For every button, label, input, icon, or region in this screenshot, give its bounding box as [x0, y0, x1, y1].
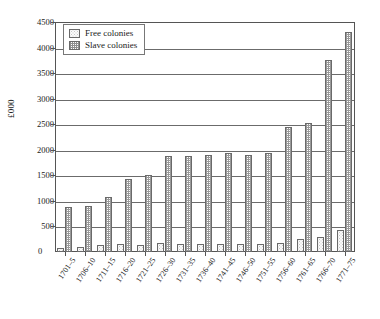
bar-slave-colonies [145, 175, 152, 252]
legend-swatch-free-icon [69, 29, 80, 38]
bar-group [75, 22, 95, 252]
bar-group [55, 22, 75, 252]
bar-free-colonies [317, 237, 324, 252]
y-axis-tick-label: 500 [14, 222, 54, 231]
x-axis-labels: 1701–51706–101711–151716–201721–251726–3… [55, 252, 355, 319]
bar-slave-colonies [205, 155, 212, 252]
bar-group [135, 22, 155, 252]
bar-chart: £000 50010001500200025003000350040004500… [0, 0, 380, 319]
bar-group [215, 22, 235, 252]
bar-slave-colonies [105, 197, 112, 252]
legend-label-slave: Slave colonies [85, 41, 137, 50]
bar-group [315, 22, 335, 252]
bar-free-colonies [217, 244, 224, 252]
bar-free-colonies [117, 244, 124, 252]
bar-slave-colonies [265, 153, 272, 252]
bar-free-colonies [237, 244, 244, 252]
legend-item-slave: Slave colonies [69, 41, 137, 50]
bar-free-colonies [97, 245, 104, 252]
x-axis-tick-mark [205, 252, 206, 256]
bar-group [295, 22, 315, 252]
x-axis-tick-mark [185, 252, 186, 256]
legend-item-free: Free colonies [69, 29, 137, 38]
bar-free-colonies [177, 244, 184, 252]
bar-group [335, 22, 355, 252]
x-axis-tick-mark [245, 252, 246, 256]
bar-free-colonies [277, 243, 284, 252]
legend-swatch-slave-icon [69, 41, 80, 50]
bar-slave-colonies [165, 156, 172, 252]
bar-group [175, 22, 195, 252]
y-axis-tick-label: 3000 [14, 94, 54, 103]
bar-slave-colonies [305, 123, 312, 252]
bar-group [155, 22, 175, 252]
bar-slave-colonies [325, 60, 332, 252]
x-axis-tick-mark [65, 252, 66, 256]
x-axis-tick-mark [325, 252, 326, 256]
bar-free-colonies [157, 243, 164, 252]
y-axis-tick-label: 2500 [14, 120, 54, 129]
bar-slave-colonies [345, 32, 352, 252]
y-axis-tick-label: 4000 [14, 43, 54, 52]
bar-slave-colonies [85, 206, 92, 252]
x-axis-tick-mark [265, 252, 266, 256]
y-axis-tick-label: 2000 [14, 146, 54, 155]
bar-group [95, 22, 115, 252]
bar-slave-colonies [285, 127, 292, 252]
bar-group [115, 22, 135, 252]
bar-slave-colonies [125, 179, 132, 252]
bar-group [255, 22, 275, 252]
bar-free-colonies [137, 245, 144, 252]
x-axis-tick-mark [145, 252, 146, 256]
bar-slave-colonies [185, 156, 192, 252]
y-axis-tick-label: 1500 [14, 171, 54, 180]
bar-group [235, 22, 255, 252]
x-axis-tick-mark [225, 252, 226, 256]
x-axis-tick-mark [105, 252, 106, 256]
legend: Free colonies Slave colonies [63, 24, 145, 55]
y-axis-tick-label: 3500 [14, 69, 54, 78]
bar-group [275, 22, 295, 252]
bar-slave-colonies [245, 155, 252, 252]
bar-free-colonies [257, 244, 264, 252]
bar-free-colonies [297, 239, 304, 252]
y-axis-tick-label: 4500 [14, 18, 54, 27]
x-axis-tick-mark [85, 252, 86, 256]
x-axis-tick-mark [345, 252, 346, 256]
bar-slave-colonies [65, 207, 72, 252]
bar-slave-colonies [225, 153, 232, 252]
x-axis-tick-mark [125, 252, 126, 256]
x-axis-tick-mark [165, 252, 166, 256]
y-axis-tick-label: 1000 [14, 197, 54, 206]
y-axis-zero-label: 0 [38, 246, 42, 256]
bar-free-colonies [337, 230, 344, 252]
x-axis-tick-mark [305, 252, 306, 256]
bar-series-container [55, 22, 355, 252]
x-axis-tick-mark [285, 252, 286, 256]
bar-group [195, 22, 215, 252]
bar-free-colonies [197, 244, 204, 252]
legend-label-free: Free colonies [85, 29, 133, 38]
